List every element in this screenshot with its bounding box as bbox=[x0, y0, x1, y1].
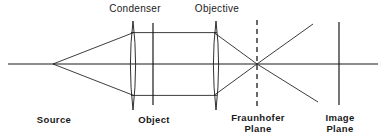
ray-lower-cone bbox=[53, 64, 134, 95]
ray-lower-converging bbox=[214, 64, 257, 95]
ray-upper-diverging bbox=[257, 24, 313, 64]
ray-upper-converging bbox=[214, 33, 257, 64]
label-object: Object bbox=[124, 114, 184, 125]
label-objective: Objective bbox=[182, 3, 252, 14]
optical-ray-diagram: Condenser Objective Source Object Fraunh… bbox=[0, 0, 385, 137]
label-condenser: Condenser bbox=[98, 3, 172, 14]
ray-lower-diverging bbox=[257, 64, 318, 102]
label-fraunhofer-plane: Fraunhofer Plane bbox=[222, 112, 294, 134]
ray-upper-cone bbox=[53, 33, 134, 64]
label-image-plane: Image Plane bbox=[313, 112, 367, 134]
condenser-lens bbox=[130, 21, 135, 110]
label-source: Source bbox=[24, 114, 84, 125]
